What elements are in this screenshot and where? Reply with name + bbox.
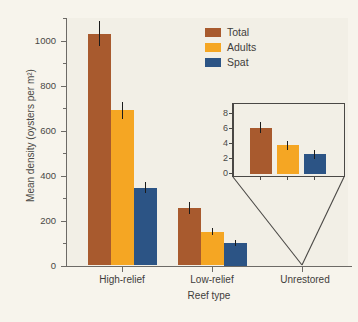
- legend-item-total: Total: [205, 26, 256, 39]
- legend-swatch-adults-icon: [205, 43, 221, 52]
- inset-bar-total: [250, 128, 272, 174]
- bar-low-relief-spat: [224, 243, 247, 266]
- bar-high-relief-total: [88, 34, 111, 266]
- legend-label-adults: Adults: [227, 42, 256, 53]
- inset-y-axis-line: [233, 104, 234, 176]
- legend-item-spat: Spat: [205, 56, 256, 69]
- inset-errorbar-spat: [314, 150, 315, 159]
- x-tick-low-relief: [212, 267, 213, 272]
- inset-x-tick-total: [260, 176, 261, 180]
- errorbar-high-relief-adults: [122, 102, 123, 119]
- bar-low-relief-adults: [201, 232, 224, 266]
- inset-y-tick-label-2: 2: [214, 154, 228, 163]
- figure-container: 1000 800 600 400 200 0 Mean density (oys…: [0, 0, 358, 322]
- x-axis-title: Reef type: [66, 290, 352, 301]
- x-tick-label-high-relief: High-relief: [82, 274, 162, 285]
- x-axis-line: [66, 266, 352, 267]
- x-tick-label-low-relief: Low-relief: [172, 274, 252, 285]
- inset-errorbar-adults: [287, 141, 288, 150]
- errorbar-high-relief-spat: [145, 182, 146, 193]
- inset-chart: 8 6 4 2 0: [232, 103, 345, 177]
- inset-x-tick-spat: [314, 176, 315, 180]
- inset-errorbar-total: [260, 122, 261, 133]
- errorbar-low-relief-adults: [212, 228, 213, 235]
- inset-y-tick-0: [229, 173, 233, 174]
- inset-y-tick-4: [229, 143, 233, 144]
- bar-high-relief-adults: [111, 110, 134, 265]
- legend-swatch-total-icon: [205, 28, 221, 37]
- inset-y-tick-8: [229, 113, 233, 114]
- inset-y-tick-label-8: 8: [214, 109, 228, 118]
- inset-y-tick-2: [229, 158, 233, 159]
- legend-item-adults: Adults: [205, 41, 256, 54]
- bar-high-relief-spat: [134, 188, 157, 266]
- errorbar-high-relief-total: [99, 21, 100, 46]
- inset-y-tick-label-0: 0: [214, 169, 228, 178]
- inset-plot-area: 8 6 4 2 0: [233, 104, 344, 176]
- x-tick-label-unrestored: Unrestored: [262, 274, 348, 285]
- inset-y-tick-label-4: 4: [214, 139, 228, 148]
- legend-swatch-spat-icon: [205, 58, 221, 67]
- errorbar-low-relief-total: [189, 202, 190, 215]
- legend-label-total: Total: [227, 27, 249, 38]
- x-tick-unrestored: [302, 267, 303, 272]
- legend: Total Adults Spat: [205, 26, 256, 71]
- bar-low-relief-total: [178, 208, 201, 265]
- inset-x-tick-adults: [287, 176, 288, 180]
- inset-y-tick-label-6: 6: [214, 124, 228, 133]
- legend-label-spat: Spat: [227, 57, 249, 68]
- x-tick-high-relief: [122, 267, 123, 272]
- inset-y-tick-6: [229, 128, 233, 129]
- errorbar-low-relief-spat: [235, 240, 236, 246]
